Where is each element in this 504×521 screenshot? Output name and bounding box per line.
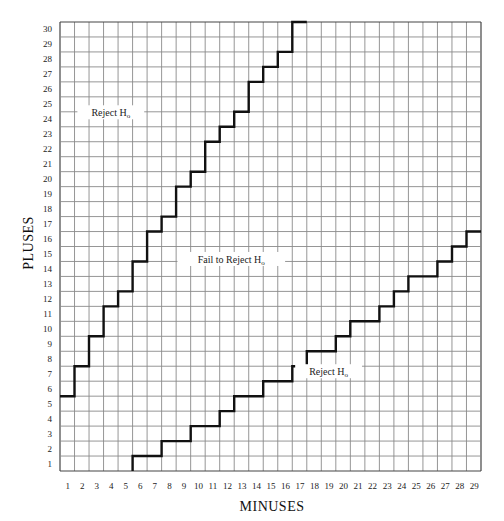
x-tick-label: 5 — [124, 481, 129, 491]
x-axis-ticks: 1234567891011121314151617181920212223242… — [66, 481, 480, 491]
y-tick-label: 11 — [43, 309, 52, 319]
x-tick-label: 28 — [455, 481, 465, 491]
upper-boundary-step-line — [60, 22, 307, 396]
x-tick-label: 3 — [95, 481, 100, 491]
y-tick-label: 7 — [48, 369, 53, 379]
x-tick-label: 6 — [138, 481, 143, 491]
y-axis-title: PLUSES — [21, 216, 36, 270]
y-tick-label: 17 — [43, 219, 53, 229]
y-tick-label: 8 — [48, 354, 53, 364]
y-tick-label: 22 — [43, 144, 52, 154]
x-tick-label: 16 — [281, 481, 291, 491]
x-tick-label: 27 — [441, 481, 451, 491]
x-tick-label: 17 — [296, 481, 306, 491]
x-tick-label: 24 — [397, 481, 407, 491]
x-tick-label: 12 — [223, 481, 232, 491]
y-tick-label: 5 — [48, 399, 53, 409]
x-tick-label: 9 — [182, 481, 187, 491]
x-tick-label: 8 — [167, 481, 172, 491]
grid — [60, 22, 481, 471]
y-tick-label: 30 — [43, 24, 53, 34]
x-tick-label: 13 — [237, 481, 247, 491]
y-tick-label: 12 — [43, 294, 52, 304]
y-tick-label: 6 — [48, 384, 53, 394]
y-tick-label: 4 — [48, 414, 53, 424]
y-tick-label: 24 — [43, 114, 53, 124]
y-tick-label: 29 — [43, 39, 53, 49]
y-tick-label: 21 — [43, 159, 52, 169]
y-tick-label: 14 — [43, 264, 53, 274]
y-tick-label: 18 — [43, 204, 53, 214]
x-tick-label: 10 — [194, 481, 204, 491]
y-tick-label: 19 — [43, 189, 53, 199]
x-tick-label: 25 — [412, 481, 422, 491]
x-tick-label: 4 — [109, 481, 114, 491]
x-tick-label: 23 — [383, 481, 393, 491]
y-tick-label: 25 — [43, 99, 53, 109]
x-tick-label: 11 — [209, 481, 218, 491]
x-tick-label: 19 — [325, 481, 335, 491]
x-tick-label: 29 — [470, 481, 480, 491]
x-tick-label: 14 — [252, 481, 262, 491]
y-tick-label: 23 — [43, 129, 53, 139]
x-tick-label: 22 — [368, 481, 377, 491]
y-tick-label: 13 — [43, 279, 53, 289]
x-tick-label: 21 — [354, 481, 363, 491]
sign-test-chart: 1234567891011121314151617181920212223242… — [0, 0, 504, 521]
y-axis-ticks: 1234567891011121314151617181920212223242… — [43, 24, 53, 468]
x-tick-label: 1 — [66, 481, 71, 491]
y-tick-label: 27 — [43, 69, 53, 79]
x-tick-label: 20 — [339, 481, 349, 491]
x-tick-label: 18 — [310, 481, 320, 491]
x-axis-title: MINUSES — [240, 499, 305, 514]
y-tick-label: 15 — [43, 249, 53, 259]
y-tick-label: 3 — [48, 429, 53, 439]
y-tick-label: 28 — [43, 54, 53, 64]
y-tick-label: 16 — [43, 234, 53, 244]
y-tick-label: 26 — [43, 84, 53, 94]
y-tick-label: 9 — [48, 339, 53, 349]
y-tick-label: 1 — [48, 459, 53, 469]
x-tick-label: 2 — [80, 481, 85, 491]
x-tick-label: 26 — [426, 481, 436, 491]
x-tick-label: 7 — [153, 481, 158, 491]
x-tick-label: 15 — [267, 481, 277, 491]
y-tick-label: 2 — [48, 444, 53, 454]
y-tick-label: 10 — [43, 324, 53, 334]
y-tick-label: 20 — [43, 174, 53, 184]
